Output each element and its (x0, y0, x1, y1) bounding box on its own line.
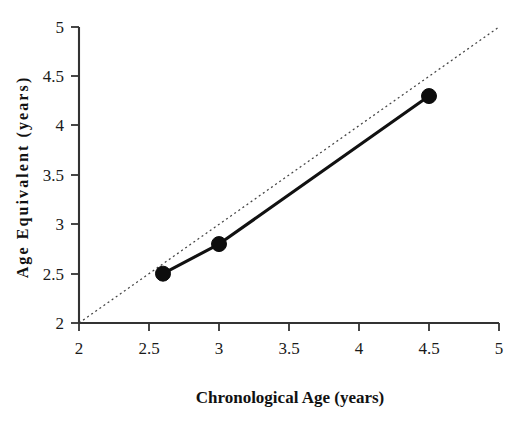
y-tick-label: 3.5 (43, 166, 64, 185)
y-tick-label: 5 (56, 18, 65, 37)
y-tick-label: 3 (56, 215, 65, 234)
x-tick-label: 2.5 (138, 339, 159, 358)
y-tick-label: 4 (56, 116, 65, 135)
y-tick-label: 4.5 (43, 67, 64, 86)
x-tick-label: 3.5 (278, 339, 299, 358)
x-axis-title: Chronological Age (years) (196, 388, 385, 407)
y-axis-title: Age Equivalent (years) (14, 76, 32, 279)
x-tick-label: 2 (75, 339, 84, 358)
data-point-marker (212, 237, 227, 252)
x-tick-label: 4.5 (418, 339, 439, 358)
chart-figure: 5 4.5 4 3.5 3 2.5 2 2 2.5 3 3.5 4 4.5 5 … (0, 0, 524, 426)
x-tick-label: 4 (355, 339, 364, 358)
data-point-marker (156, 266, 171, 281)
y-tick-label: 2.5 (43, 265, 64, 284)
chart-canvas: 5 4.5 4 3.5 3 2.5 2 2 2.5 3 3.5 4 4.5 5 … (0, 0, 524, 426)
data-point-marker (422, 89, 437, 104)
y-tick-label: 2 (56, 314, 65, 333)
x-axis-tick-labels: 2 2.5 3 3.5 4 4.5 5 (75, 339, 504, 358)
x-tick-label: 3 (215, 339, 224, 358)
x-tick-label: 5 (495, 339, 504, 358)
